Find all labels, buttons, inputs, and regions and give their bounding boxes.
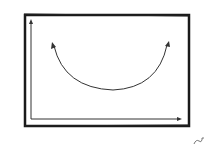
y-axis-arrow-icon: [29, 19, 33, 24]
signature-squiggle: [194, 138, 204, 144]
curve-left-arrow-icon: [51, 42, 56, 49]
curve-right-arrow-icon: [165, 41, 170, 47]
frame-border: [25, 15, 189, 126]
x-axis-arrow-icon: [177, 117, 182, 121]
u-curve: [54, 45, 167, 90]
diagram-canvas: [0, 0, 205, 146]
frame-border-sketch: [24, 14, 190, 126]
